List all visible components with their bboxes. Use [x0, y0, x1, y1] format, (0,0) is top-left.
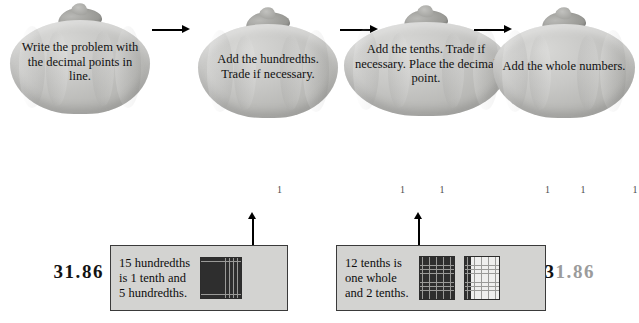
grid-cell: [423, 274, 426, 278]
grid-cell: [475, 274, 478, 278]
grid-cell: [217, 286, 220, 289]
grid-cell: [437, 257, 440, 261]
grid-cell: [205, 286, 208, 289]
grid-cell: [433, 295, 436, 299]
pointer-arrow-tenths: [414, 212, 423, 248]
grid-cell: [234, 282, 237, 285]
grid-cell: [482, 261, 485, 265]
carry-digits-1: [28, 184, 121, 195]
grid-cell: [426, 295, 429, 299]
step-callout-2: Add the hundredths. Trade if necessary.: [194, 10, 342, 122]
grid-cell: [465, 283, 468, 287]
grid-cell: [426, 266, 429, 270]
addend-bottom-1: +28.39: [28, 305, 121, 323]
grid-cell: [444, 287, 447, 291]
grid-cell: [496, 283, 499, 287]
grid-cell: [440, 270, 443, 274]
grid-cell: [205, 282, 208, 285]
grid-cell: [201, 282, 204, 285]
grid-cell: [213, 278, 216, 281]
grid-cell: [230, 286, 233, 289]
grid-cell: [426, 291, 429, 295]
step-caption-3: Add the tenths. Trade if necessary. Plac…: [350, 42, 502, 86]
grid-cell: [478, 266, 481, 270]
grid-cell: [475, 287, 478, 291]
grid-cell: [444, 270, 447, 274]
grid-cell: [444, 283, 447, 287]
grid-cell: [485, 270, 488, 274]
grid-cell: [238, 258, 241, 261]
grid-cell: [226, 262, 229, 265]
grid-cell: [213, 274, 216, 277]
grid-cell: [423, 295, 426, 299]
explanation-grids-2: [419, 256, 500, 300]
grid-cell: [468, 274, 471, 278]
grid-cell: [217, 274, 220, 277]
grid-cell: [217, 258, 220, 261]
grid-cell: [430, 257, 433, 261]
grid-cell: [440, 261, 443, 265]
grid-cell: [471, 291, 474, 295]
grid-cell: [496, 287, 499, 291]
grid-cell: [444, 266, 447, 270]
grid-cell: [471, 287, 474, 291]
grid-cell: [451, 283, 454, 287]
grid-cell: [468, 287, 471, 291]
grid-cell: [447, 274, 450, 278]
grid-cell: [430, 295, 433, 299]
grid-cell: [465, 274, 468, 278]
grid-cell: [430, 274, 433, 278]
grid-cell: [485, 266, 488, 270]
grid-cell: [437, 261, 440, 265]
grid-cell: [478, 270, 481, 274]
grid-cell: [489, 295, 492, 299]
grid-cell: [492, 257, 495, 261]
grid-cell: [496, 274, 499, 278]
grid-cell: [217, 278, 220, 281]
grid-cell: [217, 290, 220, 293]
grid-cell: [221, 286, 224, 289]
grid-cell: [426, 278, 429, 282]
grid-cell: [213, 266, 216, 269]
addend-top-1: 31.86: [28, 239, 121, 261]
grid-cell: [471, 274, 474, 278]
grid-cell: [209, 274, 212, 277]
grid-cell: [234, 286, 237, 289]
grid-cell: [468, 266, 471, 270]
grid-cell: [492, 270, 495, 274]
grid-cell: [426, 283, 429, 287]
grid-cell: [234, 274, 237, 277]
explanation-box-hundredths: 15 hundredths is 1 tenth and 5 hundredth…: [110, 245, 288, 311]
grid-cell: [226, 290, 229, 293]
grid-cell: [485, 291, 488, 295]
grid-cell: [221, 278, 224, 281]
grid-cell: [444, 257, 447, 261]
grid-cell: [478, 274, 481, 278]
grid-cell: [482, 274, 485, 278]
grid-cell: [440, 266, 443, 270]
grid-cell: [444, 261, 447, 265]
grid-cell: [471, 295, 474, 299]
grid-cell: [234, 295, 237, 298]
grid-cell: [485, 287, 488, 291]
grid-cell: [221, 262, 224, 265]
grid-cell: [238, 262, 241, 265]
grid-cell: [420, 257, 423, 261]
grid-cell: [489, 287, 492, 291]
grid-cell: [437, 266, 440, 270]
grid-cell: [447, 257, 450, 261]
grid-cell: [423, 278, 426, 282]
grid-cell: [213, 270, 216, 273]
explanation-text-2: 12 tenths is one whole and 2 tenths.: [345, 256, 409, 301]
grid-cell: [492, 266, 495, 270]
grid-cell: [209, 286, 212, 289]
grid-cell: [420, 291, 423, 295]
grid-cell: [440, 257, 443, 261]
grid-cell: [230, 258, 233, 261]
grid-cell: [234, 258, 237, 261]
grid-cell: [213, 262, 216, 265]
grid-cell: [447, 283, 450, 287]
grid-cell: [447, 261, 450, 265]
grid-cell: [423, 261, 426, 265]
grid-cell: [437, 283, 440, 287]
